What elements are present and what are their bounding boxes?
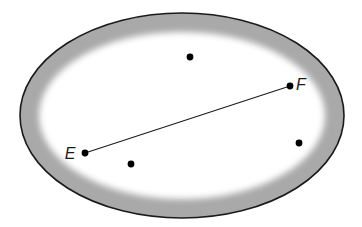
- point-dot-f: [287, 83, 294, 90]
- point-label-e: E: [65, 145, 76, 162]
- oval-interior-fill: [39, 32, 325, 199]
- point-dot-right: [296, 140, 303, 147]
- point-dot-lower-left: [128, 161, 135, 168]
- figure-canvas: E F: [0, 0, 362, 227]
- geometry-diagram: E F: [0, 0, 362, 227]
- point-dot-top: [187, 54, 194, 61]
- point-label-f: F: [296, 76, 307, 93]
- point-dot-e: [82, 150, 89, 157]
